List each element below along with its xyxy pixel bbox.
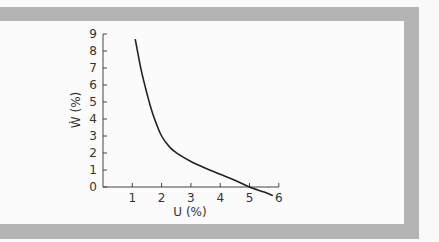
y-tick-label: 1 bbox=[89, 163, 97, 177]
y-tick-label: 2 bbox=[89, 146, 97, 160]
data-line bbox=[135, 39, 273, 195]
x-tick-label: 6 bbox=[275, 191, 283, 205]
y-tick-label: 8 bbox=[89, 44, 97, 58]
x-tick-label: 3 bbox=[187, 191, 195, 205]
y-tick-label: 9 bbox=[89, 27, 97, 41]
y-tick-label: 7 bbox=[89, 61, 97, 75]
x-tick-label: 1 bbox=[128, 191, 136, 205]
x-tick-label: 5 bbox=[246, 191, 254, 205]
x-tick-label: 2 bbox=[158, 191, 166, 205]
chart-svg: 0123456789123456 U (%) Ẇ (%) bbox=[0, 0, 439, 242]
y-axis-title: Ẇ (%) bbox=[68, 92, 83, 128]
y-tick-label: 4 bbox=[89, 112, 97, 126]
tick-labels: 0123456789123456 bbox=[89, 27, 282, 205]
y-tick-label: 3 bbox=[89, 129, 97, 143]
y-tick-label: 6 bbox=[89, 78, 97, 92]
x-tick-label: 4 bbox=[216, 191, 224, 205]
y-tick-label: 5 bbox=[89, 95, 97, 109]
axes bbox=[103, 34, 279, 187]
x-axis-title: U (%) bbox=[173, 205, 206, 219]
y-tick-label: 0 bbox=[89, 180, 97, 194]
